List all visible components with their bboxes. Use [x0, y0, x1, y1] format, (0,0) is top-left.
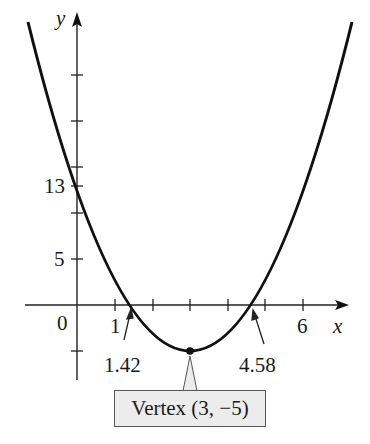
- root-left-pointer: [124, 309, 133, 340]
- root-right-label: 4.58: [239, 355, 276, 376]
- callout-pointer: [183, 356, 197, 391]
- y-tick-label-5: 5: [54, 249, 65, 270]
- vertex-callout: Vertex (3, −5): [114, 390, 266, 427]
- parabola-plot: [0, 0, 370, 444]
- origin-label: 0: [57, 313, 68, 334]
- root-left-label: 1.42: [104, 355, 141, 376]
- vertex-point: [186, 347, 194, 355]
- root-right-pointer: [252, 310, 264, 344]
- x-tick-label-1: 1: [110, 316, 121, 337]
- x-tick-label-6: 6: [297, 316, 308, 337]
- y-axis-label: y: [56, 8, 65, 29]
- y-tick-label-13: 13: [44, 176, 65, 197]
- vertex-callout-text: Vertex (3, −5): [131, 396, 248, 421]
- x-axis-label: x: [333, 316, 342, 337]
